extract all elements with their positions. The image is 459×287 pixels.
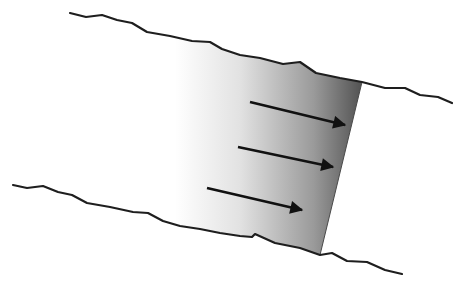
flow-diagram — [0, 0, 459, 287]
shaded-flow-region — [175, 36, 362, 255]
diagram-svg — [0, 0, 459, 287]
